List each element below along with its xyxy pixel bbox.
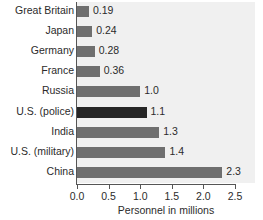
bar-value-label: 1.4 bbox=[169, 145, 184, 158]
bar-row: India1.3 bbox=[0, 123, 263, 143]
category-label: Great Britain bbox=[0, 4, 74, 17]
x-axis-tick-label: 2.5 bbox=[215, 190, 255, 203]
category-label: Russia bbox=[0, 84, 74, 97]
bar-row: Germany0.28 bbox=[0, 42, 263, 62]
bar bbox=[77, 127, 159, 138]
bar bbox=[77, 107, 147, 118]
category-label: India bbox=[0, 125, 74, 138]
category-label: Japan bbox=[0, 24, 74, 37]
category-label: Germany bbox=[0, 44, 74, 57]
bar bbox=[77, 26, 92, 37]
x-axis-title: Personnel in millions bbox=[77, 204, 255, 217]
x-axis-tick-mark bbox=[172, 185, 173, 189]
bar-value-label: 1.3 bbox=[163, 125, 178, 138]
bar-rows: Great Britain0.19Japan0.24Germany0.28Fra… bbox=[0, 2, 263, 183]
bar-value-label: 0.24 bbox=[96, 24, 116, 37]
category-label: U.S. (police) bbox=[0, 105, 74, 118]
category-label: France bbox=[0, 64, 74, 77]
bar-chart: Great Britain0.19Japan0.24Germany0.28Fra… bbox=[0, 0, 263, 220]
bar bbox=[77, 66, 100, 77]
bar-value-label: 1.0 bbox=[144, 84, 159, 97]
category-label: U.S. (military) bbox=[0, 145, 74, 158]
bar bbox=[77, 6, 89, 17]
x-axis-tick-mark bbox=[203, 185, 204, 189]
bar-row: U.S. (police)1.1 bbox=[0, 103, 263, 123]
bar-value-label: 1.1 bbox=[151, 105, 166, 118]
bar-row: U.S. (military)1.4 bbox=[0, 143, 263, 163]
x-axis-tick-mark bbox=[235, 185, 236, 189]
bar bbox=[77, 147, 165, 158]
category-label: China bbox=[0, 165, 74, 178]
bar-row: China2.3 bbox=[0, 163, 263, 183]
x-axis-tick-mark bbox=[140, 185, 141, 189]
bar-row: Russia1.0 bbox=[0, 82, 263, 102]
bar-row: Great Britain0.19 bbox=[0, 2, 263, 22]
x-axis-tick-mark bbox=[77, 185, 78, 189]
bar-row: France0.36 bbox=[0, 62, 263, 82]
bar bbox=[77, 86, 140, 97]
bar bbox=[77, 167, 222, 178]
x-axis-tick-mark bbox=[109, 185, 110, 189]
bar-value-label: 2.3 bbox=[226, 165, 241, 178]
bar-value-label: 0.28 bbox=[99, 44, 119, 57]
bar-row: Japan0.24 bbox=[0, 22, 263, 42]
bar-value-label: 0.36 bbox=[104, 64, 124, 77]
bar-value-label: 0.19 bbox=[93, 4, 113, 17]
x-axis-line bbox=[76, 184, 236, 185]
bar bbox=[77, 46, 95, 57]
